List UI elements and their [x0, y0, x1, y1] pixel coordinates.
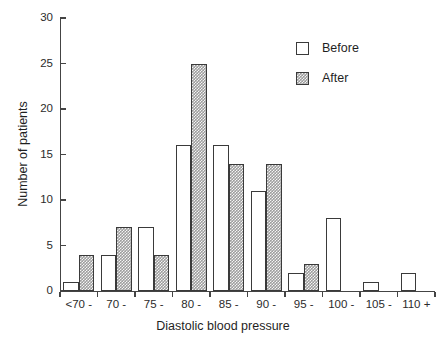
bar-after — [304, 264, 320, 291]
bar-after — [191, 64, 207, 292]
y-tick-label: 25 — [27, 58, 53, 70]
x-tick-mark — [359, 292, 360, 297]
bar-after — [154, 255, 170, 291]
y-tick-label: 20 — [27, 103, 53, 115]
bar-after — [79, 255, 95, 291]
bar-after — [266, 164, 282, 291]
y-tick-label: 0 — [27, 285, 53, 297]
x-tick-mark — [434, 292, 435, 297]
x-tick-mark — [59, 292, 60, 297]
legend-item-after: After — [296, 70, 359, 86]
chart-figure: Number of patients 051015202530 <70 -70 … — [0, 0, 446, 344]
bar-after — [116, 227, 132, 291]
x-tick-mark — [397, 292, 398, 297]
bar-before — [288, 273, 304, 291]
bar-before — [101, 255, 117, 291]
bar-before — [138, 227, 154, 291]
bar-before — [251, 191, 267, 291]
x-tick-mark — [134, 292, 135, 297]
y-tick-label: 30 — [27, 12, 53, 24]
x-tick-label: 110 + — [392, 299, 442, 311]
legend-item-before: Before — [296, 40, 359, 56]
bar-after — [229, 164, 245, 291]
bar-before — [176, 145, 192, 291]
empty-square-swatch — [296, 42, 309, 55]
bar-series-group — [60, 18, 435, 291]
x-tick-mark — [209, 292, 210, 297]
bar-before — [63, 282, 79, 291]
bar-before — [363, 282, 379, 291]
x-tick-mark — [322, 292, 323, 297]
bar-before — [401, 273, 417, 291]
y-tick-label: 15 — [27, 149, 53, 161]
x-axis-title: Diastolic blood pressure — [0, 319, 446, 333]
bar-before — [326, 218, 342, 291]
bar-before — [213, 145, 229, 291]
y-tick-label: 10 — [27, 194, 53, 206]
x-tick-mark — [284, 292, 285, 297]
x-tick-mark — [172, 292, 173, 297]
chart-legend: Before After — [296, 40, 359, 100]
legend-label-before: Before — [322, 41, 359, 55]
y-tick-label: 5 — [27, 240, 53, 252]
legend-label-after: After — [322, 71, 348, 85]
x-tick-mark — [247, 292, 248, 297]
hatched-square-swatch — [296, 72, 309, 85]
x-tick-mark — [97, 292, 98, 297]
